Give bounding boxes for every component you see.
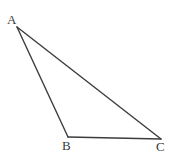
vertex-label-b: B: [62, 139, 71, 152]
edge-ab: [17, 27, 68, 137]
vertex-label-a: A: [7, 13, 16, 26]
edge-ac: [17, 27, 161, 139]
edge-bc: [68, 137, 161, 139]
triangle-drawing: [0, 0, 173, 156]
triangle-figure: A B C: [0, 0, 173, 156]
vertex-label-c: C: [156, 140, 165, 153]
